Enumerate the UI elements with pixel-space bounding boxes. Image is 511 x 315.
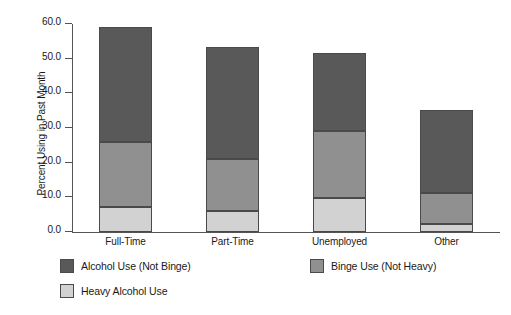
y-axis-tick-label: 60.0 — [42, 16, 61, 27]
legend-label-2: Heavy Alcohol Use — [81, 285, 167, 297]
legend-item-heavy-alcohol-use: Heavy Alcohol Use — [60, 284, 167, 298]
bar-segment[interactable] — [420, 193, 473, 224]
x-axis-label-other: Other — [377, 236, 511, 247]
y-axis-tick: 60.0 — [65, 23, 72, 24]
y-axis-tick-label: 30.0 — [42, 120, 61, 131]
bar-segment[interactable] — [313, 53, 366, 131]
bar-segment[interactable] — [420, 224, 473, 232]
bar-segment[interactable] — [99, 27, 152, 141]
legend-swatch-icon-0 — [60, 259, 74, 273]
y-axis-tick-label: 10.0 — [42, 189, 61, 200]
y-axis-tick: 20.0 — [65, 162, 72, 163]
y-axis-tick-label: 50.0 — [42, 51, 61, 62]
bar-segment[interactable] — [99, 142, 152, 207]
legend-swatch-icon-1 — [310, 259, 324, 273]
stacked-bar-chart: Percent Using in Past Month 0.010.020.03… — [0, 0, 511, 315]
bar-segment[interactable] — [206, 47, 259, 159]
y-axis-tick: 10.0 — [65, 196, 72, 197]
y-axis-tick-label: 0.0 — [47, 224, 61, 235]
y-axis-line — [72, 24, 73, 233]
bar-segment[interactable] — [313, 131, 366, 198]
bar-segment[interactable] — [313, 198, 366, 232]
x-axis-line — [72, 232, 500, 233]
y-axis-tick: 40.0 — [65, 92, 72, 93]
bar-segment[interactable] — [206, 211, 259, 232]
bar-segment[interactable] — [206, 159, 259, 211]
chart-legend: Alcohol Use (Not Binge) Binge Use (Not H… — [60, 259, 500, 309]
y-axis-tick-label: 40.0 — [42, 85, 61, 96]
bar-segment[interactable] — [420, 110, 473, 193]
y-axis-tick-label: 20.0 — [42, 155, 61, 166]
plot-area: 0.010.020.030.040.050.060.0 Full-TimePar… — [72, 24, 500, 232]
y-axis-tick: 50.0 — [65, 58, 72, 59]
y-axis-tick: 30.0 — [65, 127, 72, 128]
legend-item-binge-use-not-heavy: Binge Use (Not Heavy) — [310, 259, 436, 273]
bar-other[interactable] — [420, 110, 473, 232]
bar-segment[interactable] — [99, 207, 152, 232]
bar-part-time[interactable] — [206, 47, 259, 232]
legend-label-1: Binge Use (Not Heavy) — [331, 260, 436, 272]
legend-label-0: Alcohol Use (Not Binge) — [81, 260, 191, 272]
y-axis-tick: 0.0 — [65, 231, 72, 232]
bar-full-time[interactable] — [99, 27, 152, 232]
legend-swatch-icon-2 — [60, 284, 74, 298]
legend-item-alcohol-use-not-binge: Alcohol Use (Not Binge) — [60, 259, 191, 273]
bar-unemployed[interactable] — [313, 53, 366, 232]
